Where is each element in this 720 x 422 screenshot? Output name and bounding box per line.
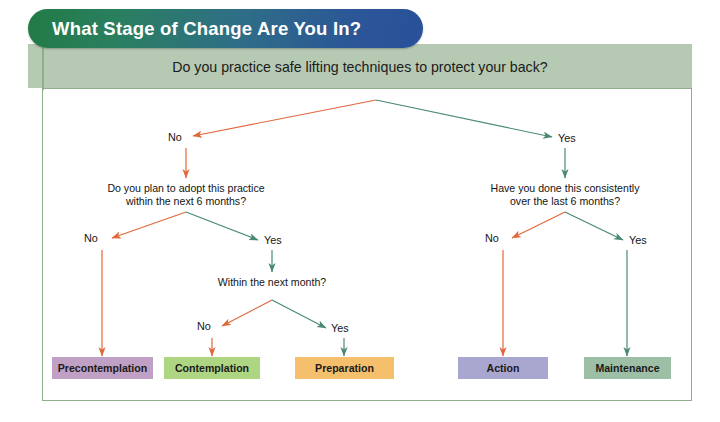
chart-panel <box>42 88 692 401</box>
branch-label-right-yes: Yes <box>629 234 647 246</box>
branch-label-right-no: No <box>485 232 499 244</box>
branch-label-left-yes: Yes <box>264 234 282 246</box>
header-question: Do you practice safe lifting techniques … <box>28 44 692 88</box>
outcome-box-action[interactable]: Action <box>458 357 548 379</box>
outcome-box-preparation[interactable]: Preparation <box>295 357 394 379</box>
branch-label-left-no: No <box>84 232 98 244</box>
title-banner: What Stage of Change Are You In? <box>28 9 423 48</box>
outcome-box-contemplation[interactable]: Contemplation <box>164 357 260 379</box>
page-title: What Stage of Change Are You In? <box>52 9 361 48</box>
branch-label-month-yes: Yes <box>331 322 349 334</box>
branch-label-month-no: No <box>197 320 211 332</box>
outcome-box-maintenance[interactable]: Maintenance <box>584 357 671 379</box>
branch-label-root-yes: Yes <box>558 132 576 144</box>
question-left-adopt: Do you plan to adopt this practice withi… <box>86 182 286 208</box>
question-within-month: Within the next month? <box>202 276 342 289</box>
branch-label-root-no: No <box>168 131 182 143</box>
outcome-box-precontemplation[interactable]: Precontemplation <box>52 357 153 379</box>
header-band: Do you practice safe lifting techniques … <box>28 44 692 88</box>
question-right-consistent: Have you done this consistently over the… <box>473 182 657 208</box>
header-band-connector <box>42 44 44 90</box>
flowchart-page: Do you practice safe lifting techniques … <box>0 0 720 422</box>
